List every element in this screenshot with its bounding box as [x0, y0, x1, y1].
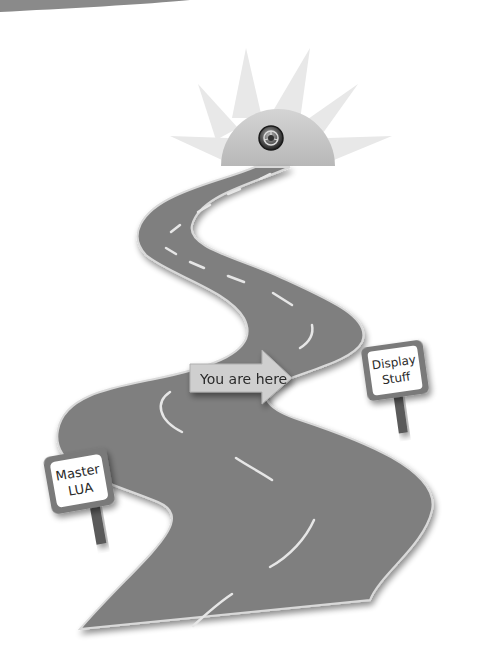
steering-wheel-icon [259, 126, 283, 150]
sign-display-stuff: Display Stuff [361, 339, 435, 437]
top-banner [0, 0, 190, 12]
marker-label: You are here [199, 371, 287, 387]
roadmap-illustration: You are here Display Stuff Master LUA [0, 0, 487, 669]
